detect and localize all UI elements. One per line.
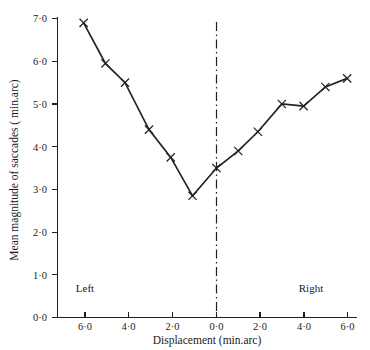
data-point-marker bbox=[234, 147, 242, 155]
data-point-marker bbox=[121, 79, 129, 87]
y-tick-label-6: 6·0 bbox=[33, 56, 47, 67]
x-tick-label-3: 0·0 bbox=[210, 321, 224, 332]
left-region-label: Left bbox=[76, 282, 94, 294]
data-point-marker bbox=[145, 126, 153, 134]
x-tick-label-5: 4·0 bbox=[297, 321, 311, 332]
y-tick-label-0: 0·0 bbox=[33, 312, 47, 323]
data-series-layer bbox=[80, 19, 352, 200]
x-tick-label-2: 2·0 bbox=[166, 321, 180, 332]
right-region-label: Right bbox=[299, 282, 323, 294]
x-tick-label-4: 2·0 bbox=[253, 321, 267, 332]
y-tick-label-2: 2·0 bbox=[33, 227, 47, 238]
saccade-magnitude-chart: 0·0 1·0 2·0 3·0 4·0 5·0 6·0 7·0 6·0 4·0 … bbox=[0, 0, 370, 350]
data-point-marker bbox=[343, 74, 351, 82]
x-axis-title: Displacement (min.arc) bbox=[153, 334, 262, 347]
y-tick-label-7: 7·0 bbox=[33, 13, 47, 24]
y-tick-label-5: 5·0 bbox=[33, 99, 47, 110]
x-tick-label-1: 4·0 bbox=[122, 321, 136, 332]
data-point-marker bbox=[321, 83, 329, 91]
x-tick-label-0: 6·0 bbox=[78, 321, 92, 332]
data-point-marker bbox=[254, 128, 262, 136]
data-point-marker bbox=[101, 59, 109, 67]
data-point-marker bbox=[80, 19, 88, 27]
data-point-marker bbox=[188, 192, 196, 200]
chart-plot-area: 0·0 1·0 2·0 3·0 4·0 5·0 6·0 7·0 6·0 4·0 … bbox=[0, 0, 370, 350]
x-tick-label-6: 6·0 bbox=[341, 321, 355, 332]
data-point-marker bbox=[167, 153, 175, 161]
y-tick-label-4: 4·0 bbox=[33, 142, 47, 153]
y-axis-ticks bbox=[52, 19, 58, 318]
y-tick-label-3: 3·0 bbox=[33, 184, 47, 195]
y-tick-label-1: 1·0 bbox=[33, 270, 47, 281]
y-axis-title: Mean magnitude of saccades ( min.arc) bbox=[8, 79, 21, 261]
